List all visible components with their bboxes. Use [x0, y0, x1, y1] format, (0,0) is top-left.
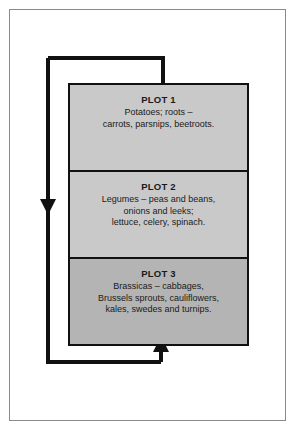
plot-2-line-2: onions and leeks; — [74, 206, 243, 218]
plot-2-title: PLOT 2 — [70, 181, 247, 193]
plot-2-description: Legumes – peas and beans, onions and lee… — [70, 194, 247, 229]
plot-2: PLOT 2 Legumes – peas and beans, onions … — [70, 172, 247, 259]
plot-2-line-3: lettuce, celery, spinach. — [74, 217, 243, 229]
plot-1-line-1: Potatoes; roots – — [74, 107, 243, 119]
rotation-diagram: PLOT 1 Potatoes; roots – carrots, parsni… — [0, 0, 296, 437]
plot-1-description: Potatoes; roots – carrots, parsnips, bee… — [70, 107, 247, 130]
plot-1-line-2: carrots, parsnips, beetroots. — [74, 119, 243, 131]
plot-1: PLOT 1 Potatoes; roots – carrots, parsni… — [70, 85, 247, 172]
plot-3-title: PLOT 3 — [70, 268, 247, 280]
plot-3-line-1: Brassicas – cabbages, — [74, 281, 243, 293]
plot-3-description: Brassicas – cabbages, Brussels sprouts, … — [70, 281, 247, 316]
plot-stack: PLOT 1 Potatoes; roots – carrots, parsni… — [68, 83, 249, 346]
arrowhead-downward-flow — [40, 199, 56, 215]
plot-3-line-2: Brussels sprouts, cauliflowers, — [74, 293, 243, 305]
plot-3: PLOT 3 Brassicas – cabbages, Brussels sp… — [70, 259, 247, 344]
plot-3-line-3: kales, swedes and turnips. — [74, 304, 243, 316]
plot-2-line-1: Legumes – peas and beans, — [74, 194, 243, 206]
plot-1-title: PLOT 1 — [70, 94, 247, 106]
